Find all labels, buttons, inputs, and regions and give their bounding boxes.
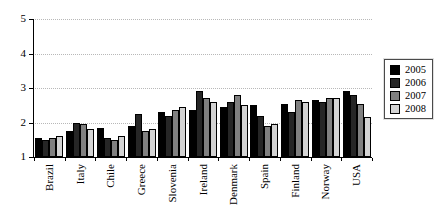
bar-slovenia-2005: [158, 112, 165, 157]
bar-usa-2007: [357, 104, 364, 157]
bar-norway-2005: [312, 100, 319, 157]
bar-italy-2005: [66, 131, 73, 157]
legend-swatch-2006: [390, 78, 400, 88]
bar-finland-2005: [281, 104, 288, 157]
bar-italy-2008: [87, 129, 94, 157]
legend-item-2006: 2006: [390, 76, 426, 89]
x-tick: [188, 158, 189, 161]
legend-label-2007: 2007: [405, 89, 426, 102]
x-tick: [65, 158, 66, 161]
bar-greece-2005: [128, 126, 135, 157]
bar-greece-2007: [142, 131, 149, 157]
x-category-label-denmark: Denmark: [227, 164, 240, 205]
bar-brazil-2008: [56, 136, 63, 157]
bar-greece-2006: [135, 114, 142, 157]
y-tick-label-5: 5: [4, 12, 26, 25]
bar-chile-2007: [111, 140, 118, 157]
bar-ireland-2007: [203, 98, 210, 157]
y-tick-label-1: 1: [4, 150, 26, 163]
bar-ireland-2008: [210, 102, 217, 157]
x-tick: [157, 158, 158, 161]
bar-ireland-2006: [196, 91, 203, 157]
bar-spain-2007: [264, 126, 271, 157]
bar-greece-2008: [149, 129, 156, 157]
legend-label-2008: 2008: [405, 102, 426, 115]
bar-spain-2005: [250, 105, 257, 157]
x-tick: [280, 158, 281, 161]
x-tick: [34, 158, 35, 161]
bar-norway-2008: [333, 98, 340, 157]
y-axis-line: [33, 19, 34, 158]
x-tick: [126, 158, 127, 161]
plot-area: 12345BrazilItalyChileGreeceSloveniaIrela…: [0, 0, 438, 212]
bar-brazil-2007: [49, 138, 56, 157]
bar-chile-2006: [104, 138, 111, 157]
bar-chile-2005: [97, 128, 104, 157]
bar-italy-2007: [80, 124, 87, 157]
bar-norway-2007: [326, 98, 333, 157]
x-category-label-ireland: Ireland: [197, 164, 210, 195]
bar-brazil-2006: [42, 140, 49, 157]
x-category-label-spain: Spain: [258, 164, 271, 189]
bar-finland-2007: [295, 100, 302, 157]
x-category-label-norway: Norway: [319, 164, 332, 199]
bar-chart: 12345BrazilItalyChileGreeceSloveniaIrela…: [0, 0, 438, 212]
x-tick: [218, 158, 219, 161]
bar-italy-2006: [73, 123, 80, 158]
x-category-label-finland: Finland: [289, 164, 302, 198]
legend-swatch-2005: [390, 65, 400, 75]
bar-finland-2008: [302, 102, 309, 157]
bar-denmark-2008: [241, 105, 248, 157]
x-tick: [311, 158, 312, 161]
bar-denmark-2007: [234, 95, 241, 157]
x-tick: [95, 158, 96, 161]
bar-slovenia-2008: [179, 107, 186, 157]
bar-slovenia-2006: [165, 116, 172, 157]
bar-finland-2006: [288, 112, 295, 157]
bar-denmark-2006: [227, 102, 234, 157]
bar-chile-2008: [118, 136, 125, 157]
gridline-3: [33, 88, 372, 89]
x-tick: [372, 158, 373, 161]
bar-slovenia-2007: [172, 110, 179, 157]
gridline-4: [33, 54, 372, 55]
x-tick: [341, 158, 342, 161]
bar-brazil-2005: [35, 138, 42, 157]
legend-swatch-2007: [390, 91, 400, 101]
bar-norway-2006: [319, 102, 326, 157]
legend-item-2008: 2008: [390, 102, 426, 115]
legend-label-2005: 2005: [405, 63, 426, 76]
x-tick: [249, 158, 250, 161]
y-tick-2: [29, 123, 33, 124]
y-tick-5: [29, 19, 33, 20]
x-axis-line: [33, 157, 372, 158]
bar-spain-2006: [257, 116, 264, 157]
gridline-5: [33, 19, 372, 20]
legend-item-2007: 2007: [390, 89, 426, 102]
x-category-label-brazil: Brazil: [43, 164, 56, 191]
legend-item-2005: 2005: [390, 63, 426, 76]
y-tick-1: [29, 157, 33, 158]
bar-denmark-2005: [220, 107, 227, 157]
y-tick-label-3: 3: [4, 81, 26, 94]
x-category-label-usa: USA: [350, 164, 363, 186]
legend: 2005200620072008: [384, 59, 433, 119]
x-category-label-slovenia: Slovenia: [166, 164, 179, 203]
bar-usa-2006: [350, 95, 357, 157]
bar-usa-2005: [343, 91, 350, 157]
bar-ireland-2005: [189, 110, 196, 157]
x-category-label-greece: Greece: [135, 164, 148, 195]
x-category-label-chile: Chile: [104, 164, 117, 188]
x-category-label-italy: Italy: [74, 164, 87, 184]
y-tick-4: [29, 54, 33, 55]
bar-spain-2008: [271, 124, 278, 157]
legend-label-2006: 2006: [405, 76, 426, 89]
y-tick-3: [29, 88, 33, 89]
legend-swatch-2008: [390, 104, 400, 114]
bar-usa-2008: [364, 117, 371, 157]
y-tick-label-2: 2: [4, 116, 26, 129]
y-tick-label-4: 4: [4, 47, 26, 60]
